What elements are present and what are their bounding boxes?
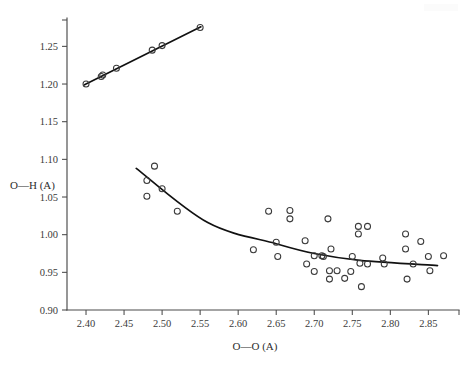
data-point-marker <box>275 254 281 260</box>
x-tick-label: 2.85 <box>419 318 437 329</box>
data-point-marker <box>365 223 371 229</box>
data-point-marker <box>302 238 308 244</box>
data-point-marker <box>380 255 386 261</box>
data-point-marker <box>144 193 150 199</box>
data-point-marker <box>287 216 293 222</box>
x-tick-label: 2.80 <box>381 318 399 329</box>
data-point-marker <box>325 216 331 222</box>
curve-fit-line <box>136 168 437 265</box>
y-tick-label: 1.05 <box>40 192 58 203</box>
axes-group <box>67 18 459 310</box>
x-tick-label: 2.75 <box>343 318 361 329</box>
y-tick-label: 1.25 <box>40 41 58 52</box>
x-tick-label: 2.40 <box>77 318 95 329</box>
data-point-marker <box>326 276 332 282</box>
data-point-marker <box>365 261 371 267</box>
data-point-marker <box>266 208 272 214</box>
data-point-marker <box>427 268 433 274</box>
data-point-marker <box>334 268 340 274</box>
data-point-marker <box>304 261 310 267</box>
data-point-marker <box>403 231 409 237</box>
data-point-marker <box>358 284 364 290</box>
data-point-marker <box>174 208 180 214</box>
y-axis-title: O—H (A) <box>10 179 55 192</box>
y-tick-label: 0.90 <box>40 305 58 316</box>
fit-lines-group <box>84 27 437 266</box>
x-tick-label: 2.55 <box>191 318 209 329</box>
data-point-marker <box>404 276 410 282</box>
y-tick-label: 1.10 <box>40 154 58 165</box>
x-tick-label: 2.70 <box>305 318 323 329</box>
data-point-marker <box>355 231 361 237</box>
tick-labels-group: 0.900.951.001.051.101.151.201.252.402.45… <box>40 41 438 329</box>
data-points-group <box>83 25 447 290</box>
data-point-marker <box>425 254 431 260</box>
x-axis-title: O—O (A) <box>233 340 278 353</box>
data-point-marker <box>342 275 348 281</box>
data-point-marker <box>144 177 150 183</box>
data-point-marker <box>348 269 354 275</box>
y-tick-label: 1.20 <box>40 79 58 90</box>
y-tick-label: 1.00 <box>40 229 58 240</box>
data-point-marker <box>355 223 361 229</box>
data-point-marker <box>349 254 355 260</box>
data-point-marker <box>250 247 256 253</box>
data-point-marker <box>287 208 293 214</box>
data-point-marker <box>357 260 363 266</box>
data-point-marker <box>151 163 157 169</box>
data-point-marker <box>403 246 409 252</box>
x-tick-label: 2.50 <box>153 318 171 329</box>
linear-fit-line <box>84 27 200 85</box>
y-tick-label: 0.95 <box>40 267 58 278</box>
data-point-marker <box>311 269 317 275</box>
data-point-marker <box>418 238 424 244</box>
x-tick-label: 2.45 <box>115 318 133 329</box>
y-tick-label: 1.15 <box>40 116 58 127</box>
data-point-marker <box>441 253 447 259</box>
data-point-marker <box>328 246 334 252</box>
figure-container: 0.900.951.001.051.101.151.201.252.402.45… <box>0 0 474 365</box>
tick-marks-group <box>62 20 459 315</box>
x-tick-label: 2.65 <box>267 318 285 329</box>
data-point-marker <box>326 268 332 274</box>
scatter-plot: 0.900.951.001.051.101.151.201.252.402.45… <box>0 0 474 365</box>
x-tick-label: 2.60 <box>229 318 247 329</box>
